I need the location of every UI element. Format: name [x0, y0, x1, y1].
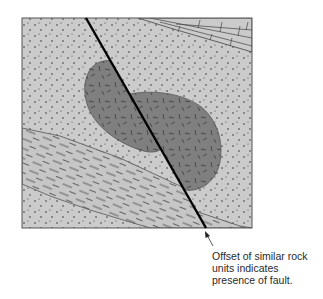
caption-line-2: units indicates [212, 262, 322, 274]
caption-line-1: Offset of similar rock [212, 250, 322, 262]
fault-caption: Offset of similar rock units indicates p… [212, 250, 322, 286]
annotation-arrow [205, 231, 213, 246]
caption-line-3: presence of fault. [212, 274, 322, 286]
